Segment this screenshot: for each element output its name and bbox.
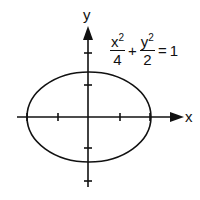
fraction-y-term: y2 2: [140, 34, 155, 67]
ellipse-diagram: y x: [0, 0, 200, 200]
rhs-value: 1: [170, 42, 178, 59]
equals-sign: =: [158, 42, 167, 59]
x-axis-label: x: [185, 108, 193, 125]
denominator-2: 2: [143, 51, 151, 67]
denominator-4: 4: [113, 51, 121, 67]
y-axis-arrow-icon: [83, 26, 93, 40]
numerator-x: x: [111, 33, 119, 50]
fraction-x-term: x2 4: [110, 34, 125, 67]
x-axis-arrow-icon: [170, 112, 184, 122]
plus-sign: +: [128, 42, 137, 59]
exponent: 2: [119, 32, 125, 43]
equation: x2 4 + y2 2 = 1: [110, 34, 178, 67]
exponent: 2: [148, 32, 154, 43]
y-axis-label: y: [83, 6, 91, 23]
